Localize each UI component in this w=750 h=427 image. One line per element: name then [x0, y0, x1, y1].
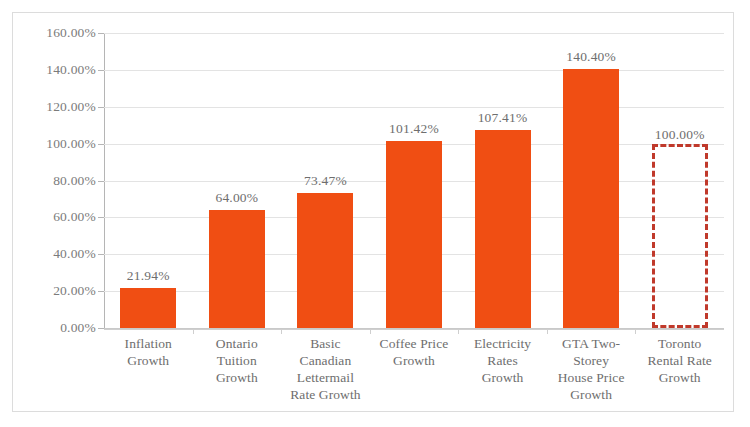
bar-6[interactable]: 140.40%: [563, 69, 619, 328]
y-axis-tick-mark: [98, 107, 104, 108]
category-label-line: Canadian: [281, 352, 370, 369]
bar-slot: 73.47%: [281, 33, 370, 328]
y-axis-tick-label: 60.00%: [18, 209, 96, 225]
category-label-2: OntarioTuitionGrowth: [193, 329, 282, 407]
bar-value-label: 140.40%: [566, 49, 616, 65]
category-label-line: Tuition: [193, 352, 282, 369]
category-label-line: Basic: [281, 335, 370, 352]
category-label-6: GTA Two-StoreyHouse PriceGrowth: [547, 329, 636, 407]
bar-slot: 107.41%: [458, 33, 547, 328]
category-separator-tick: [370, 329, 371, 334]
category-label-line: Growth: [370, 352, 459, 369]
y-axis-tick-mark: [98, 70, 104, 71]
category-label-line: Rate Growth: [281, 386, 370, 403]
bar-slot: 64.00%: [193, 33, 282, 328]
y-axis-tick-mark: [98, 181, 104, 182]
category-label-5: ElectricityRatesGrowth: [458, 329, 547, 407]
y-axis-tick-mark: [98, 254, 104, 255]
category-label-line: Rates: [458, 352, 547, 369]
category-label-4: Coffee PriceGrowth: [370, 329, 459, 407]
y-axis-tick-mark: [98, 217, 104, 218]
bar-value-label: 73.47%: [304, 173, 347, 189]
category-label-line: Growth: [635, 369, 724, 386]
y-axis-tick-mark: [98, 33, 104, 34]
bar-4[interactable]: 101.42%: [386, 141, 442, 328]
y-axis-tick-label: 80.00%: [18, 173, 96, 189]
category-label-line: Growth: [458, 369, 547, 386]
category-separator-tick: [458, 329, 459, 334]
bar-value-label: 21.94%: [127, 268, 170, 284]
category-label-line: Toronto: [635, 335, 724, 352]
bar-slot: 100.00%: [635, 33, 724, 328]
bar-slot: 140.40%: [547, 33, 636, 328]
category-label-line: Rental Rate: [635, 352, 724, 369]
y-axis-tick-label: 20.00%: [18, 283, 96, 299]
category-label-7: TorontoRental RateGrowth: [635, 329, 724, 407]
y-axis-tick-mark: [98, 144, 104, 145]
category-separator-tick: [281, 329, 282, 334]
bar-3[interactable]: 73.47%: [297, 193, 353, 328]
y-axis-tick-label: 0.00%: [18, 320, 96, 336]
category-label-line: GTA Two-: [547, 335, 636, 352]
category-label-1: InflationGrowth: [104, 329, 193, 407]
category-separator-tick: [547, 329, 548, 334]
bar-slot: 21.94%: [104, 33, 193, 328]
y-axis-tick-label: 160.00%: [18, 25, 96, 41]
category-label-line: Growth: [104, 352, 193, 369]
category-label-line: House Price: [547, 369, 636, 386]
bar-value-label: 100.00%: [655, 127, 705, 143]
bar-2[interactable]: 64.00%: [209, 210, 265, 328]
y-axis-tick-mark: [98, 328, 104, 329]
category-separator-tick: [635, 329, 636, 334]
category-label-line: Growth: [547, 386, 636, 403]
category-label-line: Ontario: [193, 335, 282, 352]
category-label-3: BasicCanadianLettermailRate Growth: [281, 329, 370, 407]
y-axis-labels: 160.00%140.00%120.00%100.00%80.00%60.00%…: [13, 13, 96, 411]
bar-value-label: 64.00%: [215, 190, 258, 206]
y-axis-tick-label: 100.00%: [18, 136, 96, 152]
chart-frame: 160.00%140.00%120.00%100.00%80.00%60.00%…: [12, 12, 734, 412]
bar-5[interactable]: 107.41%: [475, 130, 531, 328]
category-label-line: Inflation: [104, 335, 193, 352]
plot-area: 21.94%64.00%73.47%101.42%107.41%140.40%1…: [104, 33, 724, 328]
bar-value-label: 107.41%: [478, 110, 528, 126]
category-label-line: Storey: [547, 352, 636, 369]
category-label-line: Growth: [193, 369, 282, 386]
bar-7[interactable]: 100.00%: [652, 144, 708, 328]
category-label-line: Lettermail: [281, 369, 370, 386]
category-separator-tick: [193, 329, 194, 334]
y-axis-tick-mark: [98, 291, 104, 292]
category-label-line: Coffee Price: [370, 335, 459, 352]
category-axis: InflationGrowthOntarioTuitionGrowthBasic…: [104, 329, 724, 407]
bar-slot: 101.42%: [370, 33, 459, 328]
category-label-line: Electricity: [458, 335, 547, 352]
y-axis-tick-label: 120.00%: [18, 99, 96, 115]
y-axis-tick-label: 40.00%: [18, 246, 96, 262]
bar-1[interactable]: 21.94%: [120, 288, 176, 328]
bar-value-label: 101.42%: [389, 121, 439, 137]
y-axis-tick-label: 140.00%: [18, 62, 96, 78]
